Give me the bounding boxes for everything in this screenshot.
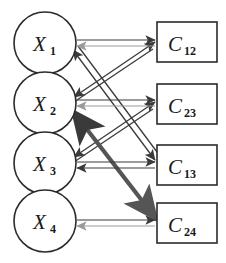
constraint-node-c23-subscript: 23 — [184, 106, 196, 120]
constraint-node-c24-subscript: 24 — [184, 225, 196, 239]
constraint-node-c13-label: C — [168, 155, 183, 179]
variable-node-x4-label: X — [32, 210, 47, 234]
variable-node-x1[interactable]: X 1 — [14, 12, 76, 74]
variable-node-x3[interactable]: X 3 — [14, 132, 76, 194]
variable-node-x4[interactable]: X 4 — [14, 190, 76, 252]
constraint-node-c24[interactable]: C 24 — [157, 203, 217, 243]
edge-x2-c12[interactable] — [71, 42, 155, 104]
variable-node-x3-subscript: 3 — [50, 164, 56, 178]
variable-node-x4-subscript: 4 — [50, 222, 56, 236]
variable-node-x2-label: X — [32, 92, 47, 116]
edge-x2-c23[interactable] — [77, 100, 155, 106]
edge-x1-c13[interactable] — [73, 46, 160, 160]
constraint-node-c13-subscript: 13 — [184, 167, 196, 181]
constraint-node-group: C 12 C 23 C 13 C 24 — [157, 22, 217, 243]
variable-node-x2[interactable]: X 2 — [14, 72, 76, 134]
bipartite-graph-diagram: X 1 X 2 X 3 X 4 C 12 C 23 — [0, 0, 226, 263]
constraint-node-c12-label: C — [168, 32, 183, 56]
constraint-node-c23[interactable]: C 23 — [157, 84, 217, 124]
variable-node-group: X 1 X 2 X 3 X 4 — [14, 12, 76, 252]
constraint-node-c12[interactable]: C 12 — [157, 22, 217, 62]
diagonal-edge-group — [71, 42, 160, 220]
constraint-node-c24-label: C — [168, 213, 183, 237]
edge-x4-c24[interactable] — [77, 220, 155, 226]
edge-x1-c12[interactable] — [77, 40, 155, 46]
variable-node-x1-label: X — [32, 32, 47, 56]
constraint-node-c23-label: C — [168, 94, 183, 118]
edge-x2-c24[interactable] — [72, 110, 157, 220]
variable-node-x1-subscript: 1 — [50, 44, 56, 58]
constraint-node-c13[interactable]: C 13 — [157, 145, 217, 185]
variable-node-x3-label: X — [32, 152, 47, 176]
variable-node-x2-subscript: 2 — [50, 104, 56, 118]
constraint-node-c12-subscript: 12 — [184, 44, 196, 58]
